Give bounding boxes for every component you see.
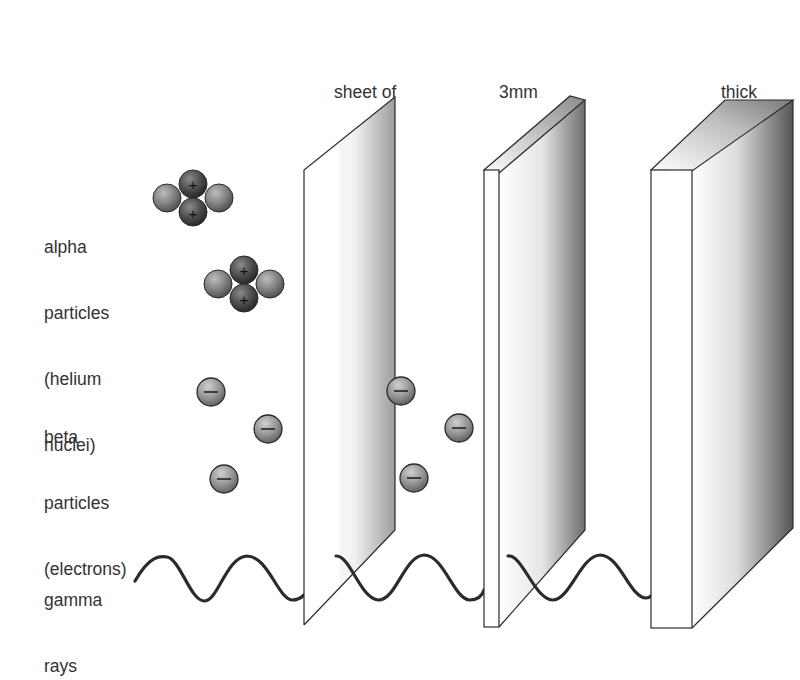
- beta-particle: [210, 465, 238, 493]
- proton-charge-icon: +: [189, 205, 198, 222]
- paper-sheet: [304, 97, 395, 625]
- alpha-particle: + +: [153, 170, 233, 226]
- beta-particle: [387, 377, 415, 405]
- aluminium-plate: [484, 96, 585, 627]
- gamma-label-line: rays: [44, 655, 102, 677]
- lead-block: [651, 100, 793, 628]
- proton-charge-icon: +: [189, 176, 198, 193]
- beta-particle: [197, 378, 225, 406]
- alpha-particle: + +: [204, 256, 284, 312]
- proton-charge-icon: +: [240, 262, 249, 279]
- beta-particle: [400, 464, 428, 492]
- beta-particle: [445, 414, 473, 442]
- beta-particle: [254, 415, 282, 443]
- proton-charge-icon: +: [240, 291, 249, 308]
- gamma-wave-segment: [135, 556, 304, 601]
